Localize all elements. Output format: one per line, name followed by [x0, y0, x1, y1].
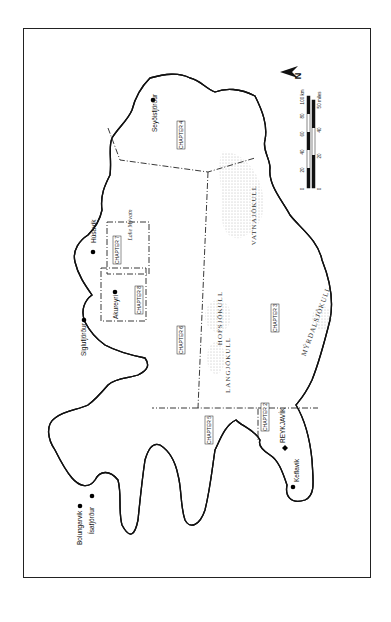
svg-text:CHAPTER 3: CHAPTER 3 — [272, 304, 278, 332]
svg-text:0: 0 — [300, 187, 305, 190]
svg-text:20: 20 — [300, 167, 305, 173]
svg-text:HOFSJÖKULL: HOFSJÖKULL — [216, 291, 224, 345]
svg-text:50 miles: 50 miles — [317, 91, 322, 109]
svg-text:Akureyri: Akureyri — [112, 295, 120, 319]
chapter-3-label: CHAPTER 3 — [271, 304, 279, 332]
svg-text:CHAPTER 2: CHAPTER 2 — [262, 403, 268, 431]
svg-text:40: 40 — [300, 149, 305, 155]
svg-text:Ísafjörður: Ísafjörður — [87, 506, 96, 534]
svg-text:CHAPTER 7: CHAPTER 7 — [114, 236, 120, 264]
scale-bar: 0 20 40 60 80 100 km 0 20 40 50 miles — [300, 89, 322, 190]
svg-text:N: N — [293, 73, 303, 80]
north-arrow: N — [280, 66, 303, 79]
towns: Seyðisfjörður Húsavík Akureyri Siglufjör… — [76, 93, 300, 545]
svg-text:CHAPTER 8: CHAPTER 8 — [136, 286, 142, 314]
svg-text:100 km: 100 km — [300, 89, 305, 104]
chapter-6-label: CHAPTER 6 — [177, 326, 185, 354]
chapter-8-label: CHAPTER 8 — [135, 286, 143, 314]
chapter-2-label: CHAPTER 2 — [261, 403, 269, 431]
iceland-map: CHAPTER 4 CHAPTER 7 CHAPTER 8 CHAPTER 6 … — [0, 0, 391, 622]
svg-text:CHAPTER 6: CHAPTER 6 — [178, 326, 184, 354]
svg-text:CHAPTER 4: CHAPTER 4 — [178, 121, 184, 149]
glacier-langjokull — [207, 342, 225, 374]
svg-text:CHAPTER 5: CHAPTER 5 — [206, 416, 212, 444]
svg-text:Húsavík: Húsavík — [90, 219, 97, 243]
chapter-7-label: CHAPTER 7 — [113, 236, 121, 264]
svg-text:REYKJAVÍK: REYKJAVÍK — [278, 407, 286, 443]
svg-text:20: 20 — [317, 153, 322, 159]
svg-text:Keflavík: Keflavík — [293, 458, 300, 482]
svg-text:80: 80 — [300, 113, 305, 119]
svg-text:VATNAJÖKULL: VATNAJÖKULL — [250, 185, 258, 245]
chapter-5-label: CHAPTER 5 — [205, 416, 213, 444]
chapter-boundaries — [101, 128, 318, 440]
svg-text:Lake Mývatn: Lake Mývatn — [127, 209, 133, 241]
chapter-4-label: CHAPTER 4 — [177, 121, 185, 149]
svg-text:Bolungarvík: Bolungarvík — [76, 510, 84, 545]
svg-text:Siglufjörður: Siglufjörður — [80, 322, 88, 356]
svg-text:60: 60 — [300, 131, 305, 137]
svg-text:Seyðisfjörður: Seyðisfjörður — [151, 93, 159, 132]
svg-text:LANGJÖKULL: LANGJÖKULL — [224, 337, 232, 393]
coastline — [49, 74, 332, 534]
svg-text:0: 0 — [317, 187, 322, 190]
chapter-labels: CHAPTER 4 CHAPTER 7 CHAPTER 8 CHAPTER 6 … — [113, 121, 279, 444]
svg-text:40: 40 — [317, 127, 322, 133]
